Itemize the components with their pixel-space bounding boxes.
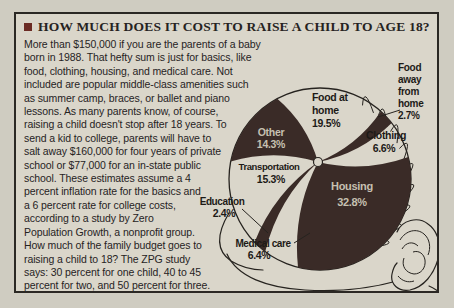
label-housing: Housing [331, 180, 373, 192]
label-housing: 32.8% [337, 196, 367, 208]
label-clothing: 6.6% [373, 142, 397, 154]
slice-housing [297, 157, 411, 270]
label-transportation: 15.3% [257, 173, 286, 185]
label-transportation: Transportation [239, 161, 301, 172]
pointer-education [242, 209, 268, 233]
infographic-panel: HOW MUCH DOES IT COST TO RAISE A CHILD T… [14, 12, 439, 293]
label-clothing: Clothing [366, 129, 406, 141]
label-food-at-home: home [312, 104, 339, 116]
label-education: 2.4% [213, 207, 237, 219]
label-food-away: home [398, 98, 424, 109]
bullet-square-icon [24, 23, 32, 31]
label-education: Education [200, 196, 245, 207]
label-other: Other [258, 126, 285, 138]
label-food-away: Food [398, 62, 421, 73]
label-medical-care: 6.4% [248, 249, 272, 261]
ear-illustration [392, 220, 438, 290]
pie-hub [314, 158, 323, 167]
title-row: HOW MUCH DOES IT COST TO RAISE A CHILD T… [24, 20, 431, 34]
page-title: HOW MUCH DOES IT COST TO RAISE A CHILD T… [38, 19, 430, 35]
label-food-away: from [398, 86, 419, 97]
label-food-at-home: Food at [312, 91, 349, 103]
label-food-at-home: 19.5% [312, 117, 341, 129]
label-food-away: away [398, 74, 422, 85]
pie-chart: Food at home 19.5% Other 14.3% Food away… [190, 50, 438, 293]
label-medical-care: Medical care [235, 238, 291, 249]
neck-line [429, 286, 438, 293]
label-food-away: 2.7% [398, 110, 420, 121]
label-other: 14.3% [257, 138, 286, 150]
